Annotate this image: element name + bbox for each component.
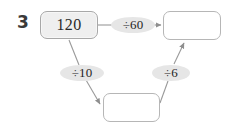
worksheet-page: 3 120 ÷60 ÷10 ÷6 [0,0,234,135]
operation-label-divide-60: ÷60 [111,17,155,33]
edge-start-to-mid [69,40,79,65]
node-box-mid[interactable] [103,93,160,122]
operation-label-divide-6-text: ÷6 [164,66,178,80]
edge-opright-to-result [174,43,184,64]
node-box-start-label: 120 [57,17,82,34]
operation-label-divide-6: ÷6 [152,65,190,81]
operation-label-divide-10-text: ÷10 [72,66,93,80]
operation-label-divide-60-text: ÷60 [123,18,144,32]
edge-mid-to-opright [160,81,168,103]
node-box-start[interactable]: 120 [40,11,98,39]
edge-opleft-to-mid [86,80,100,104]
operation-label-divide-10: ÷10 [60,65,104,81]
node-box-result[interactable] [163,11,221,40]
